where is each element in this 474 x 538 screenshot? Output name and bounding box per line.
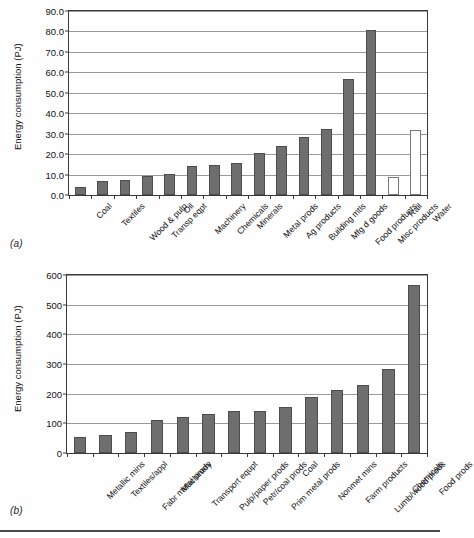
x-axis-tick (118, 453, 119, 457)
x-axis-tick (324, 453, 325, 457)
bar-cell (114, 11, 136, 195)
y-axis-title-b: Energy consumption (PJ) (12, 305, 23, 412)
bar (187, 166, 198, 195)
bar (279, 407, 291, 453)
x-axis-tick (405, 195, 406, 199)
bar-cell (91, 11, 113, 195)
bar (254, 411, 266, 453)
bar (276, 146, 287, 195)
bar (177, 417, 189, 453)
y-axis-tick-label: 0 (57, 448, 62, 459)
bar (202, 414, 214, 453)
bar-cell (293, 11, 315, 195)
chart-panel-a: Energy consumption (PJ) 0.010.020.030.04… (0, 0, 440, 262)
bar-series-b (67, 275, 427, 453)
x-axis-tick (114, 195, 115, 199)
bar-cell (181, 11, 203, 195)
x-axis-tick (315, 195, 316, 199)
bar (151, 420, 163, 453)
bar (388, 177, 399, 195)
footer-divider (0, 530, 440, 532)
x-axis-tick (159, 195, 160, 199)
y-axis-tick-label: 600 (46, 270, 62, 281)
x-axis-ticks-b (67, 453, 427, 457)
bar (120, 180, 131, 195)
bar-cell (270, 11, 292, 195)
bar (74, 437, 86, 453)
bar-cell (170, 275, 196, 453)
bar (228, 411, 240, 453)
x-axis-category-text: Machinery (178, 459, 213, 494)
x-axis-tick (136, 195, 137, 199)
chart-panel-b: Energy consumption (PJ) 0100200300400500… (0, 262, 440, 524)
bar-cell (273, 275, 299, 453)
bar (331, 390, 343, 453)
plot-area-a: 0.010.020.030.040.050.060.070.080.090.0 … (68, 10, 428, 196)
bar-cell (338, 11, 360, 195)
bar (97, 181, 108, 196)
x-axis-tick (376, 453, 377, 457)
x-axis-tick (427, 453, 428, 457)
bar (410, 130, 421, 195)
y-axis-tick-label: 500 (46, 299, 62, 310)
y-axis-tick-label: 30.0 (46, 128, 65, 139)
x-axis-category-text: Textiles (119, 201, 146, 228)
bar-cell (226, 11, 248, 195)
x-axis-tick (203, 195, 204, 199)
bar (305, 397, 317, 453)
panel-label-a: (a) (10, 238, 23, 249)
y-axis-tick-label: 400 (46, 329, 62, 340)
y-axis-tick-label: 20.0 (46, 149, 65, 160)
x-axis-tick (196, 453, 197, 457)
bar-cell (382, 11, 404, 195)
x-axis-tick (338, 195, 339, 199)
panel-label-b: (b) (10, 505, 23, 516)
bar-cell (248, 11, 270, 195)
bar (99, 435, 111, 453)
y-axis-tick-label: 50.0 (46, 87, 65, 98)
bar (164, 174, 175, 195)
x-axis-category-label: Textiles (119, 201, 146, 228)
bar (231, 163, 242, 195)
x-axis-tick (273, 453, 274, 457)
bar (408, 285, 420, 453)
bar (125, 432, 137, 453)
bar-cell (315, 11, 337, 195)
bar (357, 385, 369, 453)
bar (299, 137, 310, 195)
bar (343, 79, 354, 195)
x-axis-tick (91, 195, 92, 199)
bar (142, 176, 153, 195)
bar-cell (360, 11, 382, 195)
bar-cell (118, 275, 144, 453)
bar-cell (136, 11, 158, 195)
x-axis-category-label: Coal (94, 201, 114, 221)
x-axis-tick (293, 195, 294, 199)
x-axis-tick (221, 453, 222, 457)
plot-area-b: 0100200300400500600 Metallic minsTextile… (66, 274, 428, 454)
bar (321, 129, 332, 195)
bar-cell (196, 275, 222, 453)
bar (75, 187, 86, 195)
y-axis-tick-label: 70.0 (46, 46, 65, 57)
y-axis-tick-label: 40.0 (46, 108, 65, 119)
x-axis-tick (270, 195, 271, 199)
y-axis-tick-label: 0.0 (51, 190, 64, 201)
x-axis-category-text: Coal (94, 201, 114, 221)
y-axis-tick-label: 100 (46, 418, 62, 429)
x-axis-tick (170, 453, 171, 457)
bar-cell (376, 275, 402, 453)
bar (366, 30, 377, 195)
bar-cell (401, 275, 427, 453)
y-axis-tick-label: 90.0 (46, 6, 65, 17)
bar (382, 369, 394, 453)
bar-cell (298, 275, 324, 453)
bar (254, 153, 265, 195)
x-axis-tick (93, 453, 94, 457)
bar-cell (324, 275, 350, 453)
bar-cell (159, 11, 181, 195)
bar-cell (405, 11, 427, 195)
x-axis-tick (350, 453, 351, 457)
x-axis-category-label: Machinery (178, 459, 213, 494)
